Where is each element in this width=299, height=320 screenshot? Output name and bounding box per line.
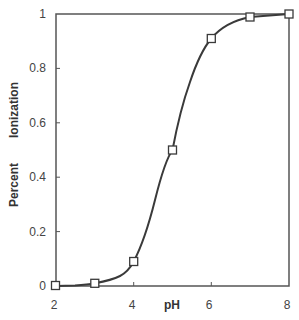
y-axis-title-part1: Percent [7, 163, 21, 207]
x-tick-8: 8 [284, 298, 291, 312]
y-tick-0.4: 0.4 [29, 170, 46, 184]
y-tick-0.2: 0.2 [29, 225, 46, 239]
y-tick-0: 0 [39, 279, 46, 293]
x-tick-2: 2 [51, 298, 58, 312]
x-axis-title: pH [164, 298, 180, 312]
marker-ph2 [52, 282, 60, 290]
marker-ph4 [130, 258, 138, 266]
marker-ph5 [169, 146, 177, 154]
marker-ph3 [91, 279, 99, 287]
marker-ph8 [285, 10, 293, 18]
x-tick-4: 4 [129, 298, 136, 312]
y-tick-1: 1 [39, 7, 46, 21]
y-tick-0.8: 0.8 [29, 61, 46, 75]
x-tick-6: 6 [206, 298, 213, 312]
marker-ph6 [207, 35, 215, 43]
y-axis-title: Percent Ionization [7, 82, 21, 207]
y-tick-0.6: 0.6 [29, 116, 46, 130]
ionization-chart: 0 0.2 0.4 0.6 0.8 1 2 4 6 8 pH Percent I… [0, 0, 299, 320]
marker-ph7 [246, 13, 254, 21]
y-axis-title-part2: Ionization [7, 82, 21, 138]
data-markers [52, 10, 294, 290]
